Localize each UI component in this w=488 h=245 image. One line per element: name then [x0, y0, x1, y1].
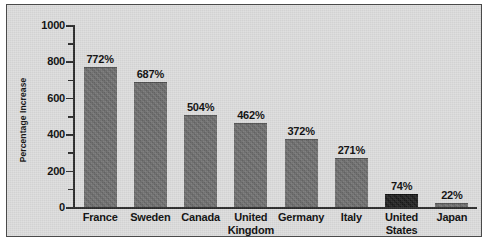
x-tick-label: Canada — [176, 211, 226, 224]
x-axis-line — [73, 207, 477, 209]
x-tick-label: France — [75, 211, 125, 224]
bar[interactable] — [84, 67, 117, 208]
bar-slot[interactable]: 372% — [285, 25, 318, 207]
x-tick-label-line: United — [377, 211, 427, 224]
bar[interactable] — [234, 123, 267, 207]
x-tick-label: Italy — [326, 211, 376, 224]
bar[interactable] — [285, 139, 318, 207]
x-tick-label: UnitedStates — [377, 211, 427, 236]
bar[interactable] — [385, 194, 418, 207]
y-tick-label: 600 — [47, 92, 65, 104]
bar-slot[interactable]: 22% — [435, 25, 468, 207]
y-tick-label: 1000 — [41, 19, 65, 31]
bar[interactable] — [134, 82, 167, 207]
x-tick-label: Sweden — [125, 211, 175, 224]
bar-value-label: 504% — [187, 101, 214, 113]
bar-value-label: 687% — [137, 68, 164, 80]
x-axis-tick-labels: FranceSwedenCanadaUnitedKingdomGermanyIt… — [75, 211, 477, 237]
bar[interactable] — [184, 115, 217, 207]
bar-value-label: 372% — [287, 125, 314, 137]
bar-slot[interactable]: 504% — [184, 25, 217, 207]
x-tick-label: Japan — [427, 211, 477, 224]
bar[interactable] — [435, 203, 468, 207]
y-tick-label: 400 — [47, 128, 65, 140]
x-tick-label-line: Germany — [276, 211, 326, 224]
bar-value-label: 22% — [441, 189, 462, 201]
x-tick-label: Germany — [276, 211, 326, 224]
y-tick-label: 200 — [47, 165, 65, 177]
x-tick-label-line: France — [75, 211, 125, 224]
bar-chart-figure: Percentage Increase 02004006008001000 77… — [0, 0, 488, 245]
bar-slot[interactable]: 74% — [385, 25, 418, 207]
x-tick-label: UnitedKingdom — [226, 211, 276, 236]
x-tick-label-line: Italy — [326, 211, 376, 224]
plot-area: 772%687%504%462%372%271%74%22% — [75, 25, 477, 207]
x-tick-label-line: States — [377, 224, 427, 237]
bar-slot[interactable]: 772% — [84, 25, 117, 207]
bar-slot[interactable]: 271% — [335, 25, 368, 207]
y-axis-tick-labels: 02004006008001000 — [29, 5, 65, 236]
x-tick-label-line: Kingdom — [226, 224, 276, 237]
bar-value-label: 74% — [391, 180, 412, 192]
y-tick-label: 0 — [59, 201, 65, 213]
y-tick-label: 800 — [47, 55, 65, 67]
bar[interactable] — [335, 158, 368, 207]
bar-value-label: 271% — [338, 144, 365, 156]
x-tick-label-line: Sweden — [125, 211, 175, 224]
bar-value-label: 772% — [86, 53, 113, 65]
bar-value-label: 462% — [237, 109, 264, 121]
x-tick-label-line: Canada — [176, 211, 226, 224]
x-tick-label-line: Japan — [427, 211, 477, 224]
chart-plot-plate: Percentage Increase 02004006008001000 77… — [6, 4, 482, 237]
bar-slot[interactable]: 687% — [134, 25, 167, 207]
bar-slot[interactable]: 462% — [234, 25, 267, 207]
y-axis-title: Percentage Increase — [18, 45, 28, 195]
x-tick-label-line: United — [226, 211, 276, 224]
